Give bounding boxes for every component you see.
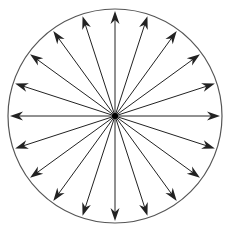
arrow — [15, 116, 115, 149]
radial-arrow-diagram — [0, 0, 226, 225]
arrowhead-icon — [30, 54, 43, 65]
arrow — [115, 16, 148, 116]
arrow — [115, 116, 148, 216]
arrowhead-icon — [187, 54, 200, 65]
arrowhead-icon — [53, 188, 64, 201]
arrow — [115, 112, 220, 121]
arrowhead-icon — [187, 166, 200, 177]
arrow — [115, 83, 215, 116]
arrow — [10, 112, 115, 121]
center-point — [112, 113, 118, 119]
arrow — [82, 16, 115, 116]
arrow — [30, 116, 115, 178]
diagram-container — [0, 0, 226, 225]
arrow — [15, 83, 115, 116]
arrowhead-icon — [165, 188, 176, 201]
arrow — [53, 116, 115, 201]
arrowhead-icon — [30, 166, 43, 177]
arrow — [53, 31, 115, 116]
arrow — [115, 116, 177, 201]
arrow — [111, 116, 120, 221]
arrowhead-icon — [165, 31, 176, 44]
arrowhead-icon — [53, 31, 64, 44]
arrow — [82, 116, 115, 216]
arrow — [115, 116, 215, 149]
arrow — [115, 54, 200, 116]
arrow — [111, 11, 120, 116]
arrow — [115, 31, 177, 116]
arrow — [30, 54, 115, 116]
arrow — [115, 116, 200, 178]
